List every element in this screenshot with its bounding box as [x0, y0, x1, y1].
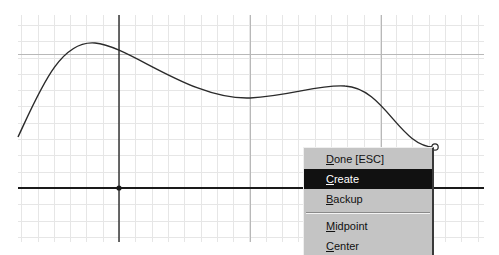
menu-item-label: enter: [334, 240, 359, 252]
menu-separator: [306, 212, 430, 214]
mnemonic: M: [326, 220, 335, 232]
menu-item-midpoint[interactable]: Midpoint: [304, 216, 432, 236]
context-menu: Done [ESC] Create Backup Midpoint Center: [303, 147, 434, 255]
mnemonic: C: [326, 240, 334, 252]
origin-point: [116, 185, 121, 190]
mnemonic: C: [326, 173, 334, 185]
mnemonic: D: [326, 153, 334, 165]
menu-item-label: reate: [334, 173, 359, 185]
menu-item-backup[interactable]: Backup: [304, 189, 432, 209]
menu-item-center[interactable]: Center: [304, 236, 432, 255]
menu-item-label: ackup: [333, 193, 362, 205]
menu-item-create[interactable]: Create: [304, 169, 432, 189]
menu-item-done[interactable]: Done [ESC]: [304, 149, 432, 169]
menu-item-label: idpoint: [335, 220, 367, 232]
menu-item-label: one [ESC]: [334, 153, 384, 165]
